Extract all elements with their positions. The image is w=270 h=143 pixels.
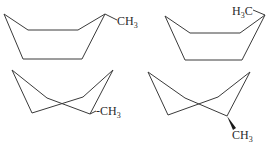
methyl-label-1: CH3 bbox=[117, 14, 138, 30]
methyl-label-4: CH3 bbox=[232, 128, 253, 143]
chair-structure-1: CH3 bbox=[4, 14, 138, 59]
methyl-label-3: -CH3 bbox=[96, 104, 121, 120]
conformations-diagram: CH3 H3C -CH3 CH3 bbox=[0, 0, 270, 143]
chair-structure-2: H3C bbox=[165, 4, 265, 60]
methyl-label-2: H3C bbox=[232, 4, 253, 20]
boat-structure-1: -CH3 bbox=[12, 70, 121, 120]
boat-structure-2: CH3 bbox=[148, 72, 253, 143]
